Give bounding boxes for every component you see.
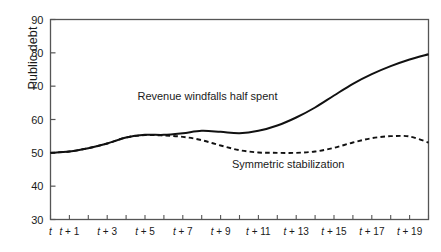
x-tick-label: t + 7 — [173, 226, 193, 237]
y-tick-label: 30 — [31, 214, 43, 226]
chart-figure: Public debt 30405060708090 tt + 1t + 3t … — [0, 0, 441, 252]
y-tick-label: 50 — [31, 147, 43, 159]
series-annotation-2: Symmetric stabilization — [232, 158, 344, 170]
series-annotation-1: Revenue windfalls half spent — [137, 90, 277, 102]
y-tick-label: 40 — [31, 180, 43, 192]
x-tick-label: t + 9 — [211, 226, 231, 237]
x-tick-label: t + 15 — [321, 226, 347, 237]
line-chart-plot: 30405060708090 tt + 1t + 3t + 5t + 7t + … — [0, 0, 441, 252]
y-axis-ticks: 30405060708090 — [31, 14, 55, 226]
series-group — [51, 54, 429, 153]
x-tick-label: t + 3 — [97, 226, 117, 237]
x-tick-label: t + 5 — [135, 226, 155, 237]
plot-frame — [51, 20, 429, 220]
series-line-2 — [51, 135, 429, 153]
y-tick-label: 80 — [31, 47, 43, 59]
x-tick-label: t + 13 — [284, 226, 310, 237]
series-annotations: Revenue windfalls half spentSymmetric st… — [137, 90, 344, 171]
x-tick-label: t — [49, 226, 53, 237]
x-axis-ticks: tt + 1t + 3t + 5t + 7t + 9t + 11t + 13t … — [49, 215, 428, 237]
x-tick-label: t + 17 — [359, 226, 385, 237]
series-line-1 — [51, 54, 429, 153]
y-tick-label: 70 — [31, 80, 43, 92]
y-tick-label: 60 — [31, 114, 43, 126]
x-tick-label: t + 19 — [397, 226, 423, 237]
x-tick-label: t + 1 — [60, 226, 80, 237]
y-tick-label: 90 — [31, 14, 43, 26]
x-tick-label: t + 11 — [246, 226, 271, 237]
